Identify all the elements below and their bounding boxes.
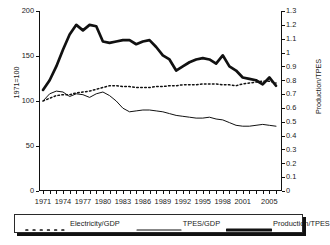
y-tick-label-right: 0.7 <box>286 90 310 97</box>
legend-shadow-right <box>303 217 306 236</box>
x-tick-mark <box>90 191 91 194</box>
y-tick-mark-right <box>282 66 285 67</box>
y-tick-mark-right <box>282 53 285 54</box>
legend-entry-electricity-gdp[interactable]: Electricity/GDP <box>25 215 120 232</box>
x-tick-mark <box>103 191 104 194</box>
y-tick-label-right: 0.1 <box>286 173 310 180</box>
y-tick-label-left: 100 <box>8 97 34 104</box>
y-tick-label-right: 0.5 <box>286 118 310 125</box>
y-tick-label-left: 150 <box>8 52 34 59</box>
y-tick-mark-left <box>36 191 39 192</box>
x-tick-mark <box>70 191 71 194</box>
y-tick-mark-right <box>282 136 285 137</box>
x-tick-mark <box>183 191 184 194</box>
x-tick-mark <box>150 191 151 194</box>
series-lines <box>39 11 282 191</box>
y-tick-mark-right <box>282 163 285 164</box>
x-tick-mark <box>76 191 77 194</box>
y-tick-label-right: 1.2 <box>286 21 310 28</box>
legend-label: Production/TPES <box>273 220 330 228</box>
x-tick-label: 2005 <box>256 198 282 205</box>
x-tick-mark <box>196 191 197 194</box>
x-tick-mark <box>169 191 170 194</box>
x-tick-mark <box>243 191 244 194</box>
x-tick-mark <box>96 191 97 194</box>
y-tick-mark-right <box>282 149 285 150</box>
legend-shadow-bottom <box>17 233 306 236</box>
x-tick-mark <box>203 191 204 194</box>
y-tick-label-left: 0 <box>8 187 34 194</box>
legend-swatch-thin-icon <box>136 220 182 227</box>
y-tick-label-right: 0.3 <box>286 146 310 153</box>
x-tick-mark <box>216 191 217 194</box>
x-tick-mark <box>276 191 277 194</box>
x-tick-mark <box>269 191 270 194</box>
y-tick-label-right: 1.3 <box>286 7 310 14</box>
x-tick-mark <box>56 191 57 194</box>
y-tick-mark-right <box>282 122 285 123</box>
y-tick-mark-right <box>282 25 285 26</box>
legend-label: Electricity/GDP <box>70 220 120 228</box>
y-axis-title-right: Production/TPES <box>314 50 323 124</box>
x-tick-mark <box>223 191 224 194</box>
plot-area <box>39 11 282 191</box>
y-tick-label-right: 0.9 <box>286 63 310 70</box>
y-tick-mark-right <box>282 94 285 95</box>
x-tick-mark <box>236 191 237 194</box>
x-tick-mark <box>176 191 177 194</box>
y-tick-label-right: 0 <box>286 187 310 194</box>
x-tick-mark <box>123 191 124 194</box>
y-tick-label-right: 1.1 <box>286 35 310 42</box>
x-tick-mark <box>130 191 131 194</box>
x-tick-mark <box>143 191 144 194</box>
y-tick-label-left: 50 <box>8 142 34 149</box>
x-tick-mark <box>83 191 84 194</box>
x-tick-mark <box>43 191 44 194</box>
x-tick-mark <box>256 191 257 194</box>
x-tick-mark <box>63 191 64 194</box>
y-tick-mark-right <box>282 11 285 12</box>
y-tick-label-right: 1 <box>286 49 310 56</box>
x-tick-mark <box>116 191 117 194</box>
y-tick-label-right: 0.6 <box>286 104 310 111</box>
legend-entry-tpes-gdp[interactable]: TPES/GDP <box>136 215 220 232</box>
x-tick-label: 2001 <box>230 198 256 205</box>
x-tick-mark <box>263 191 264 194</box>
legend-swatch-dotted-icon <box>25 220 69 227</box>
series-line-production-tpes <box>43 25 276 90</box>
x-tick-mark <box>110 191 111 194</box>
x-tick-mark <box>163 191 164 194</box>
y-tick-mark-right <box>282 191 285 192</box>
x-tick-mark <box>229 191 230 194</box>
y-tick-label-right: 0.4 <box>286 132 310 139</box>
series-line-tpes-gdp <box>43 91 276 126</box>
y-tick-label-right: 0.2 <box>286 160 310 167</box>
x-tick-mark <box>50 191 51 194</box>
legend-label: TPES/GDP <box>183 220 220 228</box>
y-tick-mark-right <box>282 108 285 109</box>
y-tick-mark-right <box>282 177 285 178</box>
legend-entry-production-tpes[interactable]: Production/TPES <box>226 215 330 232</box>
x-tick-mark <box>156 191 157 194</box>
series-line-electricity-gdp <box>43 81 276 101</box>
legend-swatch-thick-icon <box>226 220 272 227</box>
x-tick-mark <box>136 191 137 194</box>
y-tick-label-left: 200 <box>8 7 34 14</box>
x-tick-mark <box>209 191 210 194</box>
x-tick-mark <box>189 191 190 194</box>
y-tick-label-right: 0.8 <box>286 77 310 84</box>
y-tick-mark-right <box>282 39 285 40</box>
chart-legend: Electricity/GDPTPES/GDPProduction/TPES <box>14 214 303 233</box>
x-tick-mark <box>249 191 250 194</box>
y-tick-mark-right <box>282 80 285 81</box>
